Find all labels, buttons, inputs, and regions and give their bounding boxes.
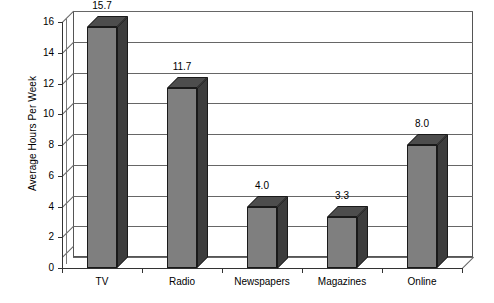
y-tick-mark xyxy=(58,207,63,208)
x-tick-label: TV xyxy=(57,276,147,287)
gridline xyxy=(73,42,473,43)
bar-value-label: 3.3 xyxy=(317,190,367,201)
x-tick-mark xyxy=(462,268,463,273)
y-tick-label: 6 xyxy=(28,171,54,181)
bar-newspapers xyxy=(247,207,277,269)
x-tick-mark xyxy=(222,268,223,273)
bar-front-face xyxy=(247,207,277,269)
y-tick-label: 2 xyxy=(28,232,54,242)
y-tick-mark xyxy=(58,237,63,238)
bar-value-label: 4.0 xyxy=(237,180,287,191)
bar-side-face xyxy=(277,196,288,269)
gridline xyxy=(73,73,473,74)
bar-side-face xyxy=(437,134,448,268)
gridline xyxy=(73,11,473,12)
y-tick-mark xyxy=(58,114,63,115)
gridline xyxy=(73,103,473,104)
bar-front-face xyxy=(167,88,197,268)
bar-magazines xyxy=(327,217,357,268)
bar-side-face xyxy=(197,77,208,268)
bar-chart: Average Hours Per Week 0246810121416 15.… xyxy=(0,0,494,303)
y-axis-line-back xyxy=(66,18,67,264)
bar-tv xyxy=(87,27,117,268)
bar-online xyxy=(407,145,437,268)
x-tick-mark xyxy=(382,268,383,273)
y-tick-mark xyxy=(58,22,63,23)
y-tick-label: 4 xyxy=(28,202,54,212)
y-tick-label: 0 xyxy=(28,263,54,273)
bar-front-face xyxy=(407,145,437,268)
x-tick-label: Radio xyxy=(137,276,227,287)
bar-value-label: 15.7 xyxy=(77,0,127,11)
x-tick-mark xyxy=(302,268,303,273)
x-tick-label: Newspapers xyxy=(217,276,307,287)
x-tick-label: Magazines xyxy=(297,276,387,287)
bar-front-face xyxy=(87,27,117,268)
x-tick-mark xyxy=(142,268,143,273)
y-tick-mark xyxy=(58,145,63,146)
y-tick-label: 8 xyxy=(28,140,54,150)
y-tick-mark xyxy=(58,84,63,85)
bar-side-face xyxy=(117,16,128,268)
y-tick-mark xyxy=(58,176,63,177)
x-tick-label: Online xyxy=(377,276,467,287)
y-tick-label: 12 xyxy=(28,79,54,89)
x-axis-line xyxy=(62,268,462,269)
y-tick-label: 14 xyxy=(28,48,54,58)
y-tick-label: 10 xyxy=(28,109,54,119)
gridline xyxy=(73,134,473,135)
bar-value-label: 8.0 xyxy=(397,118,447,129)
x-tick-mark xyxy=(62,268,63,273)
bar-radio xyxy=(167,88,197,268)
y-tick-mark xyxy=(58,53,63,54)
bar-value-label: 11.7 xyxy=(157,61,207,72)
y-tick-label: 16 xyxy=(28,17,54,27)
bar-front-face xyxy=(327,217,357,268)
